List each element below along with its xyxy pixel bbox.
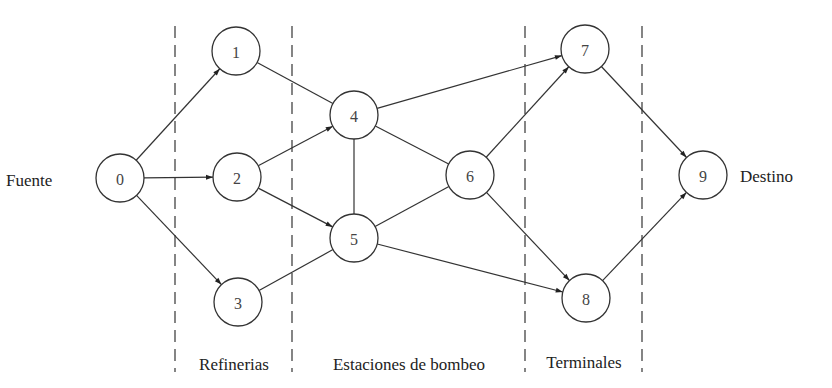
edge-2-4 — [258, 126, 333, 166]
node-3: 3 — [214, 278, 262, 326]
nodes: 0123456789 — [96, 25, 727, 326]
node-8: 8 — [562, 274, 610, 322]
node-1: 1 — [212, 27, 260, 75]
node-4: 4 — [330, 91, 378, 139]
edge-5-6 — [375, 186, 449, 226]
node-7: 7 — [561, 25, 609, 73]
node-label: 0 — [116, 171, 124, 188]
node-9: 9 — [679, 151, 727, 199]
stage-label-estaciones: Estaciones de bombeo — [333, 355, 485, 374]
edge-6-8 — [486, 192, 569, 280]
node-label: 4 — [350, 108, 358, 125]
edge-4-6 — [375, 126, 448, 164]
node-5: 5 — [330, 214, 378, 262]
node-6: 6 — [446, 151, 494, 199]
edge-1-4 — [257, 62, 333, 103]
edge-6-7 — [486, 67, 569, 158]
node-label: 9 — [699, 168, 707, 185]
stage-label-terminales: Terminales — [546, 353, 621, 372]
node-label: 2 — [233, 170, 241, 187]
node-label: 3 — [234, 295, 242, 312]
sink-label: Destino — [740, 167, 793, 186]
node-label: 1 — [232, 44, 240, 61]
source-label: Fuente — [6, 171, 52, 190]
edge-8-9 — [603, 192, 687, 280]
edge-3-5 — [259, 250, 333, 291]
edge-5-8 — [377, 244, 563, 292]
edge-0-2 — [144, 177, 213, 178]
edge-4-7 — [377, 56, 562, 109]
edge-0-3 — [137, 195, 222, 284]
node-0: 0 — [96, 154, 144, 202]
edge-7-9 — [601, 67, 686, 158]
node-label: 5 — [350, 231, 358, 248]
node-label: 8 — [582, 291, 590, 308]
edge-0-1 — [136, 69, 220, 161]
network-diagram: 0123456789 Fuente Destino Refinerias Est… — [0, 0, 832, 388]
stage-label-refinerias: Refinerias — [199, 355, 269, 374]
node-label: 6 — [466, 168, 474, 185]
edge-2-5 — [258, 188, 332, 227]
node-label: 7 — [581, 42, 589, 59]
node-2: 2 — [213, 153, 261, 201]
